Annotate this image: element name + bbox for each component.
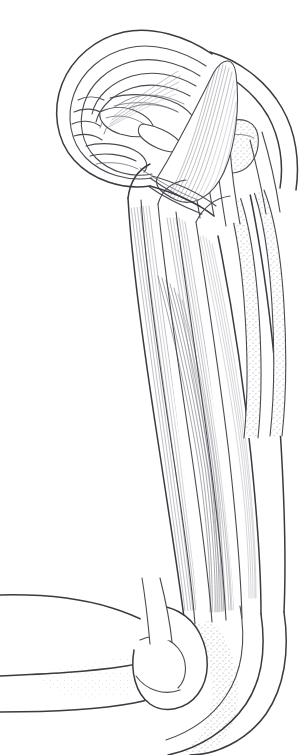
anatomical-figure: Anatomical line illustration of a flexed… bbox=[0, 0, 304, 755]
anatomy-illustration bbox=[0, 0, 304, 755]
